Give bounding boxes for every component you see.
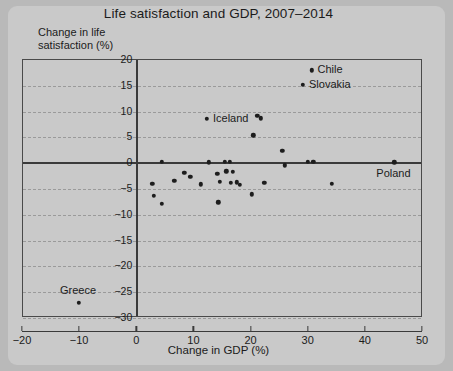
data-point-iceland [205,117,209,121]
y-tick-label: 5 [104,130,132,142]
data-point [229,181,233,185]
x-tick-label: 10 [178,334,208,346]
data-point-chile [309,68,313,72]
data-point [280,149,284,153]
x-tick-mark [193,326,194,331]
y-tick-label: −30 [104,311,132,323]
x-tick-mark [421,326,422,331]
x-tick-mark [307,326,308,331]
gridline-y--30 [23,318,421,319]
gridline-y--5 [23,189,421,190]
y-axis-label: Change in life satisfaction (%) [38,26,113,51]
point-label-chile: Chile [318,63,343,75]
data-point [216,200,220,204]
point-label-slovakia: Slovakia [309,78,351,90]
data-point [150,182,154,186]
x-tick-label: 40 [350,334,380,346]
y-tick-label: −10 [104,208,132,220]
point-label-greece: Greece [60,284,96,296]
y-tick-label: 15 [104,79,132,91]
data-point [172,179,176,183]
x-tick-label: −10 [64,334,94,346]
y-tick-label: −25 [104,285,132,297]
gridline-y--15 [23,241,421,242]
x-tick-mark [136,326,137,331]
y-tick-label: 10 [104,105,132,117]
data-point [199,182,203,186]
y-tick-label: −15 [104,234,132,246]
data-point [182,171,186,175]
data-point [160,202,164,206]
gridline-y-15 [23,86,421,87]
y-tick-label: −20 [104,259,132,271]
x-tick-label: 20 [236,334,266,346]
x-axis-spine [22,331,422,332]
x-tick-label: −20 [7,334,37,346]
data-point [215,171,219,175]
data-point [231,170,235,174]
x-tick-label: 30 [293,334,323,346]
y-tick-label: 0 [104,156,132,168]
chart-title: Life satisfaction and GDP, 2007–2014 [0,6,437,21]
data-point [249,192,253,196]
data-point [224,169,228,173]
gridline-y--20 [23,266,421,267]
point-label-iceland: Iceland [213,112,248,124]
data-point [262,181,266,185]
data-point [259,116,263,120]
x-tick-label: 50 [407,334,437,346]
x-tick-mark [78,326,79,331]
point-label-poland: Poland [376,167,410,179]
zero-line-vertical [136,60,138,316]
plot-area [22,59,422,317]
x-tick-mark [364,326,365,331]
y-tick-label: 20 [104,53,132,65]
x-tick-mark [21,326,22,331]
data-point [283,163,287,167]
data-point [237,183,241,187]
x-tick-mark [250,326,251,331]
gridline-y--10 [23,215,421,216]
data-point [188,174,192,178]
x-tick-label: 0 [121,334,151,346]
data-point-greece [77,300,81,304]
data-point [152,194,156,198]
data-point [217,180,221,184]
data-point [329,182,333,186]
gridline-y-5 [23,137,421,138]
y-tick-label: −5 [104,182,132,194]
